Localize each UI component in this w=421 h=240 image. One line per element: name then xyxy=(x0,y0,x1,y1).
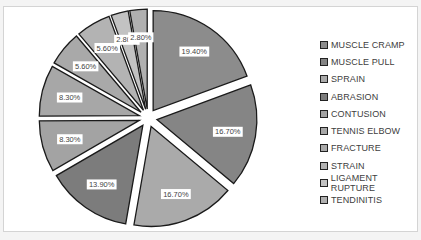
legend-label: STRAIN xyxy=(331,161,365,171)
legend-item: LIGAMENT RUPTURE xyxy=(320,174,421,191)
legend-label: CONTUSION xyxy=(331,109,386,119)
legend-label: SPRAIN xyxy=(331,74,365,84)
data-label-text: 16.70% xyxy=(215,127,241,136)
legend: MUSCLE CRAMP MUSCLE PULL SPRAIN ABRASION… xyxy=(320,36,421,209)
legend-label: TENNIS ELBOW xyxy=(331,126,400,136)
data-label: 8.30% xyxy=(57,93,83,103)
legend-label: TENDINITIS xyxy=(331,195,382,205)
legend-label: FRACTURE xyxy=(331,143,381,153)
legend-swatch xyxy=(320,75,328,83)
legend-label: LIGAMENT RUPTURE xyxy=(331,173,421,193)
data-label: 13.90% xyxy=(87,179,117,189)
data-label-text: 19.40% xyxy=(182,47,208,56)
legend-item: STRAIN xyxy=(320,157,421,174)
legend-item: MUSCLE CRAMP xyxy=(320,36,421,53)
legend-swatch xyxy=(320,162,328,170)
legend-swatch xyxy=(320,196,328,204)
legend-swatch xyxy=(320,110,328,118)
legend-swatch xyxy=(320,93,328,101)
data-label-text: 2.80% xyxy=(130,33,152,42)
legend-item: MUSCLE PULL xyxy=(320,53,421,70)
data-label-text: 8.30% xyxy=(59,93,81,102)
legend-label: MUSCLE CRAMP xyxy=(331,40,405,50)
legend-swatch xyxy=(320,179,328,187)
data-label-text: 8.30% xyxy=(59,135,81,144)
legend-item: TENDINITIS xyxy=(320,192,421,209)
legend-swatch xyxy=(320,127,328,135)
data-label: 8.30% xyxy=(57,134,83,144)
data-label: 16.70% xyxy=(161,189,191,199)
legend-label: MUSCLE PULL xyxy=(331,57,395,67)
legend-item: TENNIS ELBOW xyxy=(320,122,421,139)
data-label: 5.60% xyxy=(73,61,99,71)
legend-item: CONTUSION xyxy=(320,105,421,122)
legend-item: FRACTURE xyxy=(320,140,421,157)
legend-item: SPRAIN xyxy=(320,71,421,88)
data-label-text: 16.70% xyxy=(163,190,189,199)
data-label: 19.40% xyxy=(179,47,209,57)
data-label: 16.70% xyxy=(213,127,243,137)
data-label-text: 5.60% xyxy=(75,62,97,71)
data-label-text: 5.60% xyxy=(97,44,119,53)
legend-item: ABRASION xyxy=(320,88,421,105)
legend-swatch xyxy=(320,58,328,66)
legend-swatch xyxy=(320,144,328,152)
legend-label: ABRASION xyxy=(331,92,378,102)
data-label: 2.80% xyxy=(128,32,154,42)
legend-swatch xyxy=(320,41,328,49)
data-label-text: 13.90% xyxy=(89,180,115,189)
